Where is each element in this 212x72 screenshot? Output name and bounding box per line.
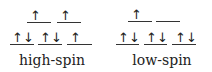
- spin-down-arrow-icon: ↓: [157, 31, 168, 44]
- low-spin-panel: ↑ ↑ ↓ ↑ ↓ ↑ ↓ low-spin: [0, 0, 212, 72]
- spin-up-arrow-icon: ↑: [131, 8, 142, 21]
- upper-orbital-2: [156, 21, 180, 22]
- spin-down-arrow-icon: ↓: [186, 31, 197, 44]
- spin-up-arrow-icon: ↑: [146, 31, 157, 44]
- spin-up-arrow-icon: ↑: [175, 31, 186, 44]
- spin-down-arrow-icon: ↓: [129, 31, 140, 44]
- spin-up-arrow-icon: ↑: [118, 31, 129, 44]
- low-spin-label: low-spin: [122, 52, 202, 68]
